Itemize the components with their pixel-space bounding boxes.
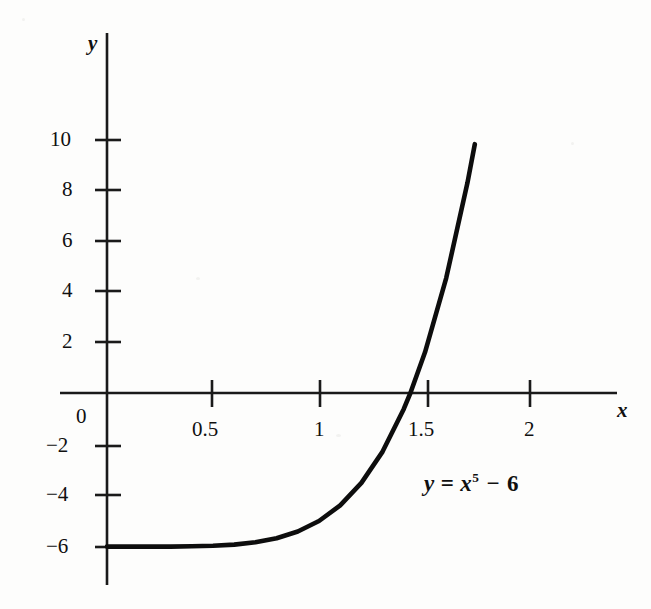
x-tick-label-2: 2: [524, 419, 535, 440]
equation-exponent: 5: [472, 470, 479, 485]
y-axis-label: y: [88, 33, 97, 54]
equation-constant: 6: [507, 471, 519, 496]
x-axis-label: x: [617, 400, 628, 421]
y-tick-label-8: 8: [62, 179, 73, 200]
equation-lhs: y: [424, 471, 435, 496]
equation-minus: −: [487, 471, 501, 496]
x-tick-label-0-5: 0.5: [192, 419, 218, 440]
x-tick-label-1: 1: [314, 419, 325, 440]
y-tick-label-2: 2: [62, 331, 73, 352]
origin-tick-label: 0: [76, 406, 87, 427]
equation-base: x: [460, 471, 472, 496]
y-tick-label-6: 6: [62, 230, 73, 251]
axis-lines: [60, 33, 617, 585]
x-tick-label-1-5: 1.5: [408, 419, 434, 440]
plot-area: [0, 0, 651, 609]
equation-annotation: y=x5−6: [424, 472, 519, 495]
y-tick-label-minus-6: −6: [46, 536, 68, 557]
equation-equals: =: [441, 471, 455, 496]
y-tick-label-10: 10: [50, 129, 71, 150]
curve-y-equals-x5-minus-6: [107, 144, 475, 546]
y-tick-label-minus-2: −2: [46, 435, 68, 456]
figure-graph-x5-minus-6: y x 10 8 6 4 2 −2 −4 −6 0 0.5 1 1.5 2 y=…: [0, 0, 651, 609]
y-tick-label-4: 4: [62, 280, 73, 301]
y-tick-label-minus-4: −4: [46, 484, 68, 505]
